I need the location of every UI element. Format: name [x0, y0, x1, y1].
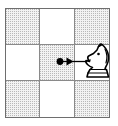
- board-cell-r2c1[interactable]: [6, 45, 40, 81]
- knight-piece-icon[interactable]: [83, 42, 111, 82]
- knight-eye-icon: [97, 53, 100, 56]
- board-cell-r3c2[interactable]: [40, 81, 74, 117]
- board-cell-r1c3[interactable]: [75, 9, 109, 45]
- figure-canvas: Knight move on a 3x3 board section: [0, 0, 118, 126]
- board-cell-r1c1[interactable]: [6, 9, 40, 45]
- board-cell-r2c2[interactable]: [40, 45, 74, 81]
- board-cell-r1c2[interactable]: [40, 9, 74, 45]
- board-cell-r3c3[interactable]: [75, 81, 109, 117]
- board-cell-r3c1[interactable]: [6, 81, 40, 117]
